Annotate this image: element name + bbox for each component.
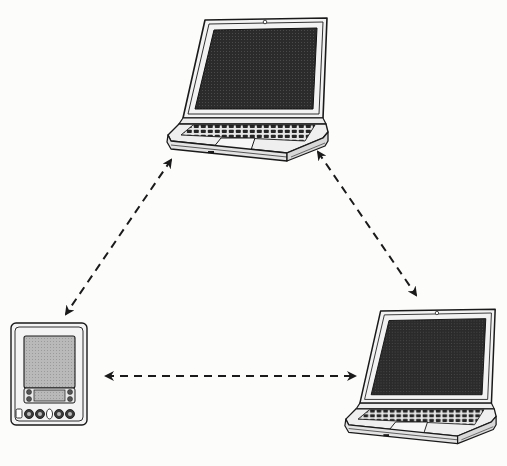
pda-icon [11,323,87,425]
connections [66,152,416,376]
laptop-icon [167,18,328,161]
connection-laptop-top-to-laptop-bottom-right [318,152,416,295]
diagram-canvas [0,0,507,466]
laptop-icon [345,309,496,443]
devices [11,18,496,444]
network-diagram [0,0,507,466]
connection-laptop-top-to-pda [66,160,171,314]
